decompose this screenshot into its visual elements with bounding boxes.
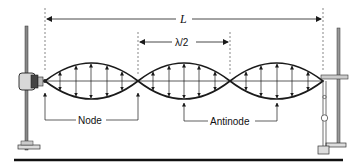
antinode-label: Antinode <box>210 116 250 127</box>
half-wavelength-label: λ/2 <box>175 37 189 48</box>
length-label: L <box>179 12 187 26</box>
standing-wave-diagram: L λ/2 Node <box>0 0 358 165</box>
node-label: Node <box>78 115 102 126</box>
right-stand <box>321 28 348 147</box>
vibrator-icon <box>19 73 47 90</box>
